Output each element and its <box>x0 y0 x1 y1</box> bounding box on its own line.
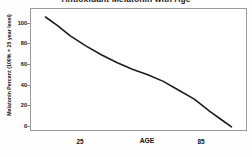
x-tick-label-85: 85 <box>189 138 213 145</box>
chart-figure: Antioxidant Melatonin with Age Melatonin… <box>0 0 252 157</box>
y-tick-label-40: 40 <box>5 82 27 88</box>
y-tick-label-0: 0 <box>5 123 27 129</box>
y-tick-label-60: 60 <box>5 61 27 67</box>
y-axis-tick-labels: 100 80 60 40 20 0 <box>0 0 27 157</box>
y-tick-label-80: 80 <box>5 40 27 46</box>
plot-canvas <box>30 8 247 131</box>
x-axis-title: AGE <box>122 137 172 144</box>
y-tick-label-20: 20 <box>5 102 27 108</box>
x-tick-label-25: 25 <box>68 138 92 145</box>
melatonin-decline-line <box>46 17 232 127</box>
chart-title: Antioxidant Melatonin with Age <box>0 0 252 4</box>
y-tick-label-100: 100 <box>5 20 27 26</box>
